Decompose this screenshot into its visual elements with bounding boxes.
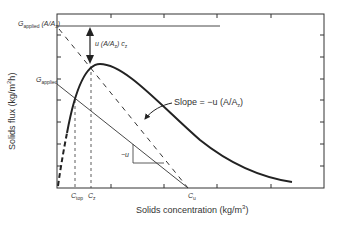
underflow-operating-line: [57, 84, 188, 188]
settling-flux-diagram: Gapplied (A/Az) Gapplied u (A/Az) cz Slo…: [0, 0, 340, 225]
flux-gap-label: u (A/Az) cz: [95, 40, 127, 49]
x-axis-label: Solids concentration (kg/m3): [136, 204, 248, 215]
y-axis-label: Solids flux (kg/m2h): [6, 73, 17, 150]
g-applied-az-label: Gapplied (A/Az): [18, 20, 60, 29]
minus-u-label: −u: [121, 151, 129, 158]
flux-curve: [67, 64, 292, 182]
arrow-down-head: [86, 55, 94, 64]
slope-label: Slope = −u (A/Az): [174, 98, 243, 108]
flux-curve-dashed: [58, 133, 67, 186]
arrow-up-head: [86, 27, 94, 36]
plot-area: [0, 0, 340, 225]
slope-triangle: [133, 144, 164, 163]
c-top-label: Ctop: [71, 192, 83, 201]
g-applied-label: Gapplied: [36, 76, 58, 85]
c-z-label: Cz: [88, 192, 96, 201]
tangent-dashed-line: [59, 29, 188, 188]
c-u-label: Cu: [188, 192, 196, 201]
